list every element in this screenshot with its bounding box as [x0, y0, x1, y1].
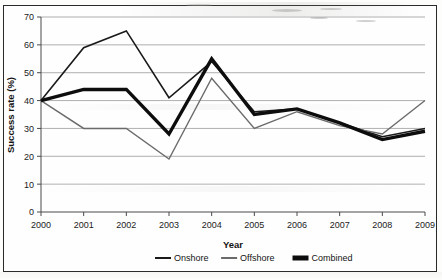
x-tick-label-2009: 2009	[415, 220, 435, 230]
y-tick-label-20: 20	[24, 152, 34, 162]
legend-label-combined: Combined	[312, 253, 353, 263]
legend-item-onshore[interactable]: Onshore	[155, 253, 209, 263]
legend-label-offshore: Offshore	[240, 253, 274, 263]
x-tick-label-2006: 2006	[287, 220, 307, 230]
x-tick-label-2005: 2005	[244, 220, 264, 230]
y-tick-label-40: 40	[24, 96, 34, 106]
legend-label-onshore: Onshore	[174, 253, 209, 263]
line-chart: 706050403020100 200020012002200320042005…	[0, 0, 442, 280]
x-tick-label-2008: 2008	[372, 220, 392, 230]
x-tick-label-2004: 2004	[202, 220, 222, 230]
legend-item-offshore[interactable]: Offshore	[221, 253, 274, 263]
y-tick-label-30: 30	[24, 124, 34, 134]
y-tick-label-0: 0	[29, 207, 34, 217]
y-axis-title: Success rate (%)	[5, 77, 16, 153]
y-tick-label-60: 60	[24, 40, 34, 50]
x-tick-label-2000: 2000	[31, 220, 51, 230]
series-line-combined	[41, 59, 425, 140]
y-tick-label-70: 70	[24, 12, 34, 22]
data-series-group	[41, 31, 425, 159]
legend-item-combined[interactable]: Combined	[293, 253, 353, 263]
y-tick-label-10: 10	[24, 180, 34, 190]
x-tick-label-2002: 2002	[116, 220, 136, 230]
x-axis-title: Year	[223, 239, 243, 250]
chart-legend: OnshoreOffshoreCombined	[155, 253, 353, 263]
x-axis-tick-labels: 2000200120022003200420052006200720082009	[31, 220, 435, 230]
figure-canvas: 706050403020100 200020012002200320042005…	[0, 0, 442, 280]
x-tick-label-2003: 2003	[159, 220, 179, 230]
y-tick-label-50: 50	[24, 68, 34, 78]
x-tick-label-2001: 2001	[74, 220, 94, 230]
y-axis-tick-labels: 706050403020100	[24, 12, 34, 217]
tick-marks-group	[37, 17, 425, 216]
x-tick-label-2007: 2007	[330, 220, 350, 230]
